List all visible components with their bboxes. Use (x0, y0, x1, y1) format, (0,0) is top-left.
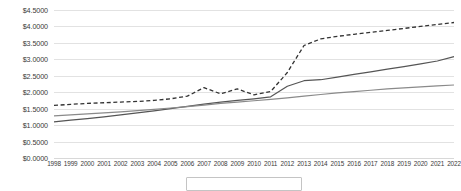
x-axis-tick-label: 1999 (64, 160, 78, 167)
y-axis: $4.5000$4.0000$3.5000$3.0000$2.5000$2.00… (0, 0, 50, 184)
x-axis-tick-label: 2018 (381, 160, 395, 167)
x-axis-tick-label: 2012 (281, 160, 295, 167)
plot-area (54, 10, 454, 158)
x-axis-tick-label: 2022 (447, 160, 461, 167)
y-axis-tick-label: $4.0000 (23, 22, 48, 31)
x-axis-tick-label: 2015 (331, 160, 345, 167)
x-axis: 1998199920002001200220032004200520062007… (54, 160, 454, 172)
x-axis-tick-label: 2014 (314, 160, 328, 167)
series-line-series-dashed (54, 23, 454, 106)
x-axis-tick-label: 2007 (197, 160, 211, 167)
y-axis-tick-label: $0.0000 (23, 154, 48, 163)
x-axis-tick-label: 2017 (364, 160, 378, 167)
x-axis-tick-label: 2019 (397, 160, 411, 167)
y-axis-tick-label: $2.5000 (23, 71, 48, 80)
x-axis-tick-label: 2010 (247, 160, 261, 167)
x-axis-tick-label: 2006 (181, 160, 195, 167)
y-axis-tick-label: $3.5000 (23, 38, 48, 47)
x-axis-tick-label: 2011 (264, 160, 277, 167)
x-axis-tick-label: 2004 (147, 160, 161, 167)
chart-legend[interactable] (186, 177, 302, 191)
series-layer (54, 10, 454, 158)
x-axis-tick-label: 2005 (164, 160, 178, 167)
y-axis-tick-label: $3.0000 (23, 55, 48, 64)
x-axis-tick-label: 2002 (114, 160, 128, 167)
gridline (54, 158, 454, 159)
x-axis-tick-label: 2009 (231, 160, 245, 167)
series-line-series-solid-lower (54, 85, 454, 116)
x-axis-tick-label: 2013 (297, 160, 311, 167)
x-axis-tick-label: 2001 (97, 160, 111, 167)
y-axis-tick-label: $1.5000 (23, 104, 48, 113)
x-axis-tick-label: 2003 (131, 160, 145, 167)
y-axis-tick-label: $1.0000 (23, 121, 48, 130)
x-axis-tick-label: 2021 (431, 160, 445, 167)
x-axis-tick-label: 2008 (214, 160, 228, 167)
x-axis-tick-label: 1998 (47, 160, 61, 167)
x-axis-tick-label: 2016 (347, 160, 361, 167)
x-axis-tick-label: 2000 (81, 160, 95, 167)
y-axis-tick-label: $0.5000 (23, 137, 48, 146)
x-axis-tick-label: 2020 (414, 160, 428, 167)
y-axis-tick-label: $4.5000 (23, 6, 48, 15)
y-axis-tick-label: $2.0000 (23, 88, 48, 97)
